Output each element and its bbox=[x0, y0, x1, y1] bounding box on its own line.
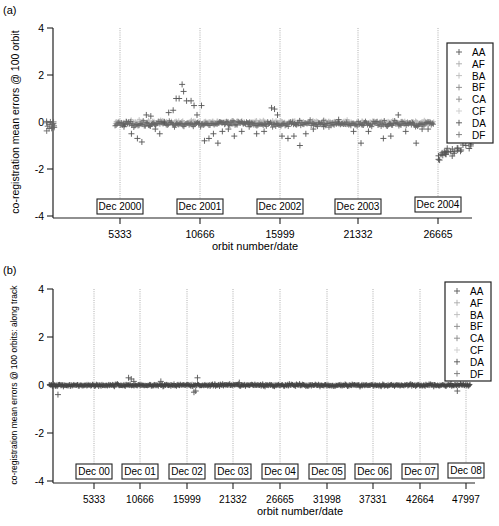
y-tick-label: -2 bbox=[35, 163, 44, 175]
svg-text:BA: BA bbox=[470, 310, 484, 321]
date-annotation: Dec 2002 bbox=[257, 199, 303, 214]
x-tick-label: 26665 bbox=[266, 494, 294, 505]
panel-a: (a) co-registration mean errors @ 100 or… bbox=[3, 4, 493, 252]
y-tick-label: 2 bbox=[38, 331, 44, 343]
x-tick-label: 15999 bbox=[173, 494, 201, 505]
x-tick-label: 21332 bbox=[219, 494, 247, 505]
panel-a-legend: AAAFBABFCACFDADF bbox=[447, 43, 493, 143]
date-annotation: Dec 08 bbox=[448, 463, 484, 478]
y-tick-label: 0 bbox=[38, 116, 44, 128]
svg-text:Dec 2000: Dec 2000 bbox=[99, 201, 142, 212]
svg-text:Dec 07: Dec 07 bbox=[404, 466, 436, 477]
svg-text:Dec 05: Dec 05 bbox=[311, 466, 343, 477]
x-tick-label: 10666 bbox=[126, 494, 154, 505]
y-tick-label: 2 bbox=[38, 69, 44, 81]
y-tick-label: -4 bbox=[35, 210, 44, 222]
date-annotation: Dec 2001 bbox=[177, 199, 223, 214]
svg-text:CA: CA bbox=[470, 333, 484, 344]
svg-text:AA: AA bbox=[472, 47, 486, 58]
panel-a-xlabel: orbit number/date bbox=[212, 240, 298, 252]
svg-text:CA: CA bbox=[472, 94, 486, 105]
panel-b-date-labels: Dec 00Dec 01Dec 02Dec 03Dec 04Dec 05Dec … bbox=[76, 463, 484, 479]
panel-b-x-ticks: 5333106661599921332266653199837331426644… bbox=[83, 483, 480, 505]
date-annotation: Dec 02 bbox=[169, 464, 205, 479]
svg-text:Dec 04: Dec 04 bbox=[264, 466, 296, 477]
panel-b-label: (b) bbox=[3, 264, 16, 276]
panel-a-data-points bbox=[44, 81, 474, 163]
svg-text:AF: AF bbox=[470, 298, 483, 309]
y-tick-label: 0 bbox=[38, 379, 44, 391]
date-annotation: Dec 05 bbox=[309, 464, 345, 479]
x-tick-label: 37331 bbox=[359, 494, 387, 505]
panel-a-date-labels: Dec 2000Dec 2001Dec 2002Dec 2003Dec 2004 bbox=[97, 197, 461, 214]
panel-b: (b) co-registration mean errors @ 100 or… bbox=[3, 264, 491, 517]
x-tick-label: 10666 bbox=[185, 228, 214, 240]
panel-b-xlabel: orbit number/date bbox=[257, 505, 343, 517]
svg-text:Dec 02: Dec 02 bbox=[171, 466, 203, 477]
x-tick-label: 21332 bbox=[343, 228, 372, 240]
date-annotation: Dec 01 bbox=[122, 464, 158, 479]
date-annotation: Dec 06 bbox=[355, 464, 391, 479]
svg-text:AF: AF bbox=[472, 59, 485, 70]
svg-text:DF: DF bbox=[470, 369, 483, 380]
date-annotation: Dec 2003 bbox=[335, 199, 381, 214]
svg-text:Dec 2002: Dec 2002 bbox=[259, 201, 302, 212]
svg-text:BF: BF bbox=[472, 82, 485, 93]
svg-text:Dec 00: Dec 00 bbox=[78, 466, 110, 477]
svg-text:DA: DA bbox=[470, 357, 484, 368]
date-annotation: Dec 03 bbox=[215, 464, 251, 479]
svg-text:Dec 01: Dec 01 bbox=[124, 466, 156, 477]
svg-text:Dec 08: Dec 08 bbox=[450, 465, 482, 476]
panel-a-x-ticks: 533310666159992133226665 bbox=[108, 218, 452, 240]
panel-a-label: (a) bbox=[3, 4, 16, 16]
date-annotation: Dec 2000 bbox=[97, 199, 143, 214]
svg-text:CF: CF bbox=[470, 345, 483, 356]
x-tick-label: 47997 bbox=[452, 494, 480, 505]
y-tick-label: -4 bbox=[35, 475, 44, 487]
svg-text:Dec 06: Dec 06 bbox=[357, 466, 389, 477]
date-annotation: Dec 04 bbox=[262, 464, 298, 479]
panel-b-gridlines bbox=[94, 289, 466, 471]
x-tick-label: 26665 bbox=[423, 228, 452, 240]
svg-text:Dec 2001: Dec 2001 bbox=[179, 201, 222, 212]
y-tick-label: 4 bbox=[38, 283, 44, 295]
svg-text:BF: BF bbox=[470, 321, 483, 332]
panel-a-gridlines bbox=[120, 28, 438, 206]
svg-text:Dec 2004: Dec 2004 bbox=[417, 199, 460, 210]
x-tick-label: 31998 bbox=[313, 494, 341, 505]
svg-text:CF: CF bbox=[472, 106, 485, 117]
x-tick-label: 5333 bbox=[83, 494, 106, 505]
svg-text:DA: DA bbox=[472, 118, 486, 129]
y-tick-label: -2 bbox=[35, 427, 44, 439]
panel-b-ylabel: co-registration mean errors @ 100 orbits… bbox=[9, 285, 19, 485]
x-tick-label: 42664 bbox=[406, 494, 434, 505]
x-tick-label: 15999 bbox=[265, 228, 294, 240]
svg-text:DF: DF bbox=[472, 130, 485, 141]
svg-text:AA: AA bbox=[470, 286, 484, 297]
panel-a-ylabel: co-registration mean errors @ 100 orbit bbox=[9, 30, 21, 213]
date-annotation: Dec 07 bbox=[402, 464, 438, 479]
panel-b-legend: AAAFBABFCACFDADF bbox=[445, 282, 491, 381]
svg-text:Dec 2003: Dec 2003 bbox=[337, 201, 380, 212]
y-tick-label: 4 bbox=[38, 22, 44, 34]
date-annotation: Dec 00 bbox=[76, 464, 112, 479]
date-annotation: Dec 2004 bbox=[415, 197, 461, 212]
x-tick-label: 5333 bbox=[108, 228, 132, 240]
svg-text:BA: BA bbox=[472, 71, 486, 82]
svg-text:Dec 03: Dec 03 bbox=[217, 466, 249, 477]
panel-b-data-points bbox=[47, 375, 473, 398]
